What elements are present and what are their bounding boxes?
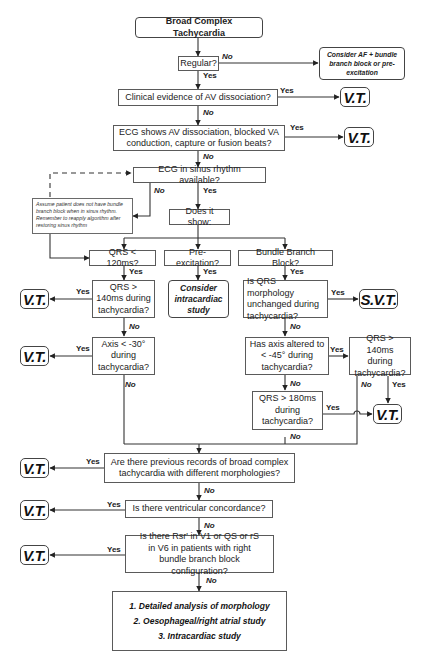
- no-label: No: [154, 186, 165, 195]
- vt-outcome: V.T.: [373, 404, 402, 424]
- yes-label: Yes: [392, 380, 406, 389]
- vt-outcome: V.T.: [20, 500, 49, 520]
- sinus-rhythm-ecg-question: ECG in sinus rhythm available?: [133, 167, 266, 183]
- assume-no-bbb-note: Assume patient does not have bundle bran…: [32, 198, 133, 234]
- no-label: No: [206, 576, 217, 585]
- final-step-3: 3. Intracardiac study: [113, 631, 286, 641]
- no-label: No: [129, 322, 140, 331]
- yes-label: Yes: [107, 545, 121, 554]
- no-label: No: [125, 380, 136, 389]
- no-label: No: [290, 432, 301, 441]
- yes-label: Yes: [280, 86, 294, 95]
- yes-label: Yes: [331, 288, 345, 297]
- qrs-over-180-question: QRS > 180ms during tachycardia?: [252, 391, 323, 430]
- axis-under-minus-30-question: Axis < -30° during tachycardia?: [92, 337, 155, 375]
- final-step-1: 1. Detailed analysis of morphology: [113, 601, 286, 611]
- connector: [50, 234, 89, 258]
- no-label: No: [204, 486, 215, 495]
- yes-label: Yes: [290, 123, 304, 132]
- no-label: No: [222, 52, 233, 61]
- vt-outcome: V.T.: [344, 127, 374, 147]
- vt-outcome: V.T.: [20, 346, 49, 366]
- svt-outcome: S.V.T.: [359, 289, 398, 309]
- yes-label: Yes: [203, 71, 217, 80]
- vt-outcome: V.T.: [20, 289, 49, 309]
- yes-label: Yes: [330, 345, 344, 354]
- pre-excitation-question: Pre-excitation?: [164, 250, 231, 266]
- vt-outcome: V.T.: [340, 87, 370, 107]
- bundle-branch-block-question: Bundle Branch Block?: [238, 250, 333, 266]
- final-recommendations: 1. Detailed analysis of morphology 2. Oe…: [112, 591, 287, 651]
- dashed-connector: [50, 173, 131, 197]
- no-label: No: [290, 322, 301, 331]
- clinical-av-dissociation-question: Clinical evidence of AV dissociation?: [118, 89, 278, 106]
- regular-question: Regular?: [178, 56, 219, 71]
- consider-intracardiac-outcome: Consider intracardiac study: [168, 280, 229, 318]
- no-label: No: [361, 380, 372, 389]
- start-node: Broad Complex Tachycardia: [135, 17, 263, 38]
- consider-af-outcome: Consider AF + bundle branch block or pre…: [319, 47, 405, 80]
- qrs-over-140-left-question: QRS > 140ms during tachycardia?: [92, 280, 155, 318]
- vt-outcome: V.T.: [20, 458, 49, 478]
- qrs-under-120-question: QRS < 120ms?: [89, 250, 156, 266]
- yes-label: Yes: [107, 500, 121, 509]
- rsr-v1-question: Is there Rsr' in V1 or QS or rS in V6 in…: [125, 535, 274, 573]
- ventricular-concordance-question: Is there ventricular concordance?: [125, 500, 273, 518]
- previous-records-question: Are there previous records of broad comp…: [104, 453, 295, 483]
- qrs-morphology-question: Is QRS morphology unchanged during tachy…: [243, 280, 328, 318]
- qrs-over-140-right-question: QRS > 140ms during tachycardia?: [349, 337, 411, 375]
- yes-label: Yes: [203, 267, 217, 276]
- does-it-show-question: Does it show:: [169, 209, 230, 225]
- yes-label: Yes: [76, 344, 90, 353]
- final-step-2: 2. Oesophageal/right atrial study: [113, 616, 286, 626]
- yes-label: Yes: [326, 403, 340, 412]
- yes-label: Yes: [129, 267, 143, 276]
- no-label: No: [290, 379, 301, 388]
- yes-label: Yes: [290, 267, 304, 276]
- yes-label: Yes: [203, 186, 217, 195]
- no-label: No: [204, 521, 215, 530]
- no-label: No: [203, 152, 214, 161]
- no-label: No: [203, 108, 214, 117]
- yes-label: Yes: [86, 457, 100, 466]
- vt-outcome: V.T.: [20, 545, 49, 565]
- ecg-av-dissociation-question: ECG shows AV dissociation, blocked VA co…: [113, 125, 285, 151]
- connector: [133, 182, 150, 216]
- yes-label: Yes: [76, 287, 90, 296]
- axis-altered-minus-45-question: Has axis altered to < -45° during tachyc…: [245, 337, 329, 375]
